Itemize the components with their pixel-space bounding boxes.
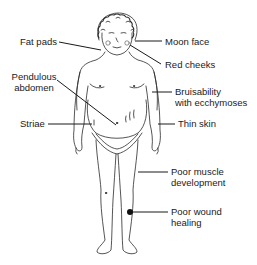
label-moon-face: Moon face bbox=[165, 36, 209, 47]
label-red-cheeks: Red cheeks bbox=[165, 59, 215, 70]
label-striae: Striae bbox=[20, 118, 45, 129]
label-poor-wound: Poor wound healing bbox=[171, 206, 222, 228]
leader-lines bbox=[48, 41, 175, 212]
label-pendulous-abdomen-line1: Pendulous bbox=[11, 71, 57, 82]
moon-face bbox=[102, 33, 132, 56]
label-pendulous-abdomen: Pendulous abdomen bbox=[11, 71, 57, 93]
label-bruisability-line2: with ecchymoses bbox=[175, 97, 247, 108]
arms bbox=[74, 72, 161, 154]
label-poor-muscle-line1: Poor muscle bbox=[171, 166, 225, 177]
legs bbox=[96, 140, 138, 254]
hair bbox=[98, 13, 137, 40]
label-fat-pads: Fat pads bbox=[20, 36, 57, 47]
wound-mark bbox=[127, 209, 133, 215]
leader-fat-pads bbox=[59, 42, 101, 50]
torso bbox=[77, 52, 158, 138]
label-thin-skin: Thin skin bbox=[178, 118, 216, 129]
label-bruisability: Bruisability with ecchymoses bbox=[175, 86, 247, 108]
leader-red-cheeks bbox=[130, 45, 161, 64]
label-bruisability-line1: Bruisability bbox=[175, 86, 247, 97]
label-poor-muscle-line2: development bbox=[171, 177, 225, 188]
label-poor-wound-line2: healing bbox=[171, 217, 222, 228]
label-poor-muscle: Poor muscle development bbox=[171, 166, 225, 188]
leader-pendulous-abdomen bbox=[57, 80, 116, 125]
label-pendulous-abdomen-line2: abdomen bbox=[11, 82, 57, 93]
underwear bbox=[92, 133, 142, 154]
label-poor-wound-line1: Poor wound bbox=[171, 206, 222, 217]
